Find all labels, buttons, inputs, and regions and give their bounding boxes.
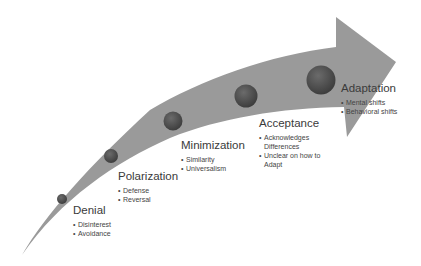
- stage-bullets: Acknowledges Differences Unclear on how …: [259, 133, 327, 169]
- bullet-item: Mental shifts: [341, 98, 397, 107]
- stage-title: Denial: [73, 204, 111, 217]
- stage-title: Acceptance: [259, 117, 327, 130]
- stage-title: Adaptation: [341, 82, 397, 95]
- bullet-item: Avoidance: [73, 229, 111, 238]
- stage-polarization: Polarization Defense Reversal: [118, 170, 178, 204]
- stage-title: Minimization: [181, 139, 245, 152]
- bullet-text: Unclear on how to Adapt: [264, 152, 320, 168]
- stage-acceptance: Acceptance Acknowledges Differences Uncl…: [259, 117, 327, 169]
- bullet-item: Similarity: [181, 155, 245, 164]
- progression-arrow-diagram: [0, 0, 421, 266]
- stage-minimization: Minimization Similarity Universalism: [181, 139, 245, 173]
- stage-node-adaptation: [307, 66, 336, 95]
- stage-bullets: Mental shifts Behavioral shifts: [341, 98, 397, 116]
- stage-adaptation: Adaptation Mental shifts Behavioral shif…: [341, 82, 397, 116]
- stage-node-acceptance: [235, 85, 258, 108]
- stage-title: Polarization: [118, 170, 178, 183]
- bullet-item: Behavioral shifts: [341, 107, 397, 116]
- stage-bullets: Disinterest Avoidance: [73, 220, 111, 238]
- bullet-item: Defense: [118, 186, 178, 195]
- bullet-text: Acknowledges Differences: [264, 134, 309, 150]
- bullet-item: Universalism: [181, 164, 245, 173]
- bullet-item: Disinterest: [73, 220, 111, 229]
- stage-bullets: Defense Reversal: [118, 186, 178, 204]
- stage-node-minimization: [164, 112, 183, 131]
- bullet-item: Reversal: [118, 195, 178, 204]
- stage-node-polarization: [104, 149, 118, 163]
- stage-node-denial: [57, 194, 67, 204]
- stage-bullets: Similarity Universalism: [181, 155, 245, 173]
- bullet-item: Unclear on how to Adapt: [259, 151, 327, 169]
- bullet-item: Acknowledges Differences: [259, 133, 327, 151]
- stage-denial: Denial Disinterest Avoidance: [73, 204, 111, 238]
